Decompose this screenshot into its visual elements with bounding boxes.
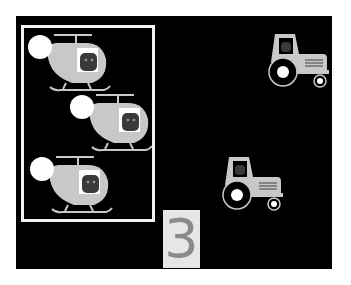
tractor-icon[interactable]: [265, 28, 331, 90]
helicopter-icon[interactable]: [26, 31, 112, 95]
count-digit: 3: [164, 212, 198, 266]
count-answer-box[interactable]: 3: [163, 210, 200, 268]
helicopter-icon[interactable]: [28, 153, 114, 217]
tractor-icon[interactable]: [219, 151, 285, 213]
helicopter-icon[interactable]: [68, 91, 154, 155]
game-board: 3: [16, 16, 332, 269]
